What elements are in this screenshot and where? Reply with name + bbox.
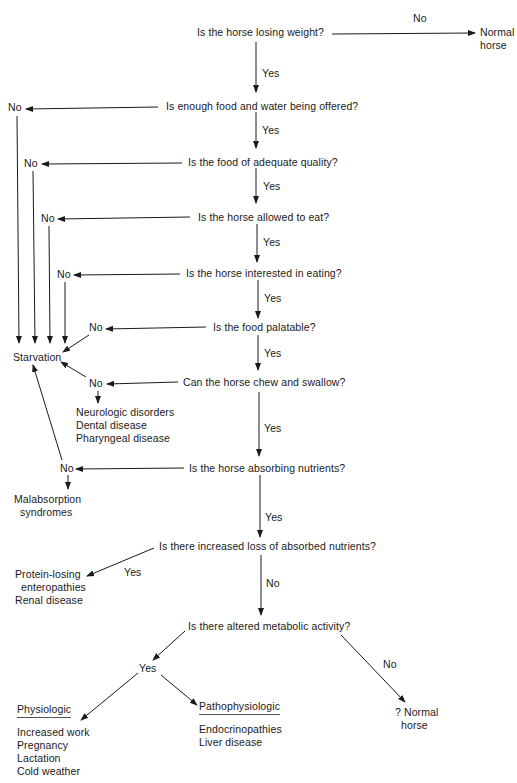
edge-label-yes: Yes — [262, 67, 279, 80]
edge-label-no: No — [89, 377, 103, 390]
question-chew-swallow: Can the horse chew and swallow? — [183, 376, 345, 389]
weight-loss-flowchart: Is the horse losing weight? Is enough fo… — [0, 0, 517, 783]
outcome-malabsorption-syndromes: Malabsorption syndromes — [14, 493, 81, 519]
edge-label-yes: Yes — [124, 566, 141, 579]
question-food-quality: Is the food of adequate quality? — [188, 156, 338, 169]
outcome-pathophysiologic-causes: Endocrinopathies Liver disease — [199, 723, 282, 749]
outcome-normal-horse: Normal horse — [480, 26, 514, 52]
question-absorbing-nutrients: Is the horse absorbing nutrients? — [189, 462, 345, 475]
edge-label-no: No — [41, 212, 55, 225]
outcome-physiologic-causes: Increased work Pregnancy Lactation Cold … — [17, 726, 90, 778]
outcome-chew-swallow-causes: Neurologic disorders Dental disease Phar… — [76, 406, 174, 445]
edge-label-yes: Yes — [262, 124, 279, 137]
edge-label-yes: Yes — [263, 180, 280, 193]
edge-label-no: No — [383, 658, 397, 671]
edge-label-yes: Yes — [263, 236, 280, 249]
edge-label-no: No — [24, 157, 38, 170]
edge-label-no: No — [413, 12, 427, 25]
outcome-nutrient-loss-causes: Protein-losing enteropathies Renal disea… — [15, 568, 86, 607]
question-allowed-to-eat: Is the horse allowed to eat? — [198, 211, 329, 224]
question-altered-metabolic: Is there altered metabolic activity? — [188, 620, 350, 633]
edge-label-yes: Yes — [265, 511, 282, 524]
question-losing-weight: Is the horse losing weight? — [197, 26, 324, 39]
question-food-water-offered: Is enough food and water being offered? — [166, 100, 358, 113]
heading-pathophysiologic: Pathophysiologic — [199, 700, 280, 715]
edge-label-no: No — [266, 577, 280, 590]
outcome-normal-horse-uncertain: ? Normal horse — [395, 706, 438, 732]
edge-label-no: No — [60, 462, 74, 475]
edge-label-no: No — [89, 321, 103, 334]
connector-arrows — [0, 0, 517, 783]
edge-label-yes: Yes — [264, 422, 281, 435]
edge-label-no: No — [57, 268, 71, 281]
heading-physiologic: Physiologic — [17, 703, 71, 718]
question-increased-loss: Is there increased loss of absorbed nutr… — [159, 540, 376, 553]
question-food-palatable: Is the food palatable? — [213, 321, 316, 334]
outcome-starvation: Starvation — [13, 351, 61, 364]
edge-label-yes: Yes — [264, 347, 281, 360]
edge-label-yes: Yes — [264, 292, 281, 305]
edge-label-no: No — [8, 101, 22, 114]
question-interested-eating: Is the horse interested in eating? — [186, 267, 342, 280]
edge-label-yes: Yes — [139, 662, 156, 675]
